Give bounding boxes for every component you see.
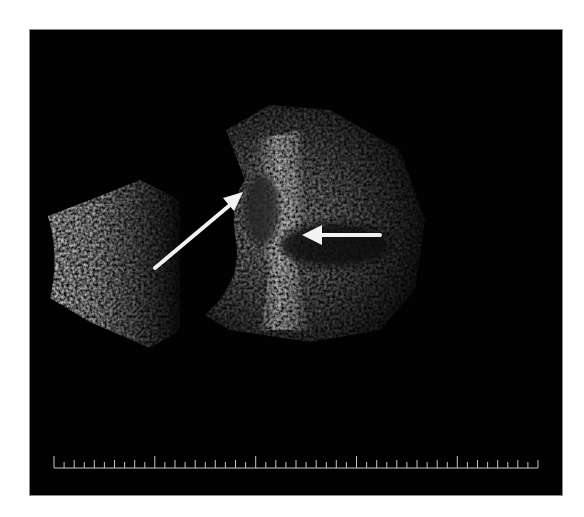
right-echo-region (205, 105, 425, 342)
ultrasound-scan (30, 30, 563, 496)
dark-lesion (244, 175, 280, 245)
ultrasound-frame (29, 29, 563, 496)
optic-nerve-shadow (280, 223, 390, 267)
scale-bar (54, 456, 538, 468)
